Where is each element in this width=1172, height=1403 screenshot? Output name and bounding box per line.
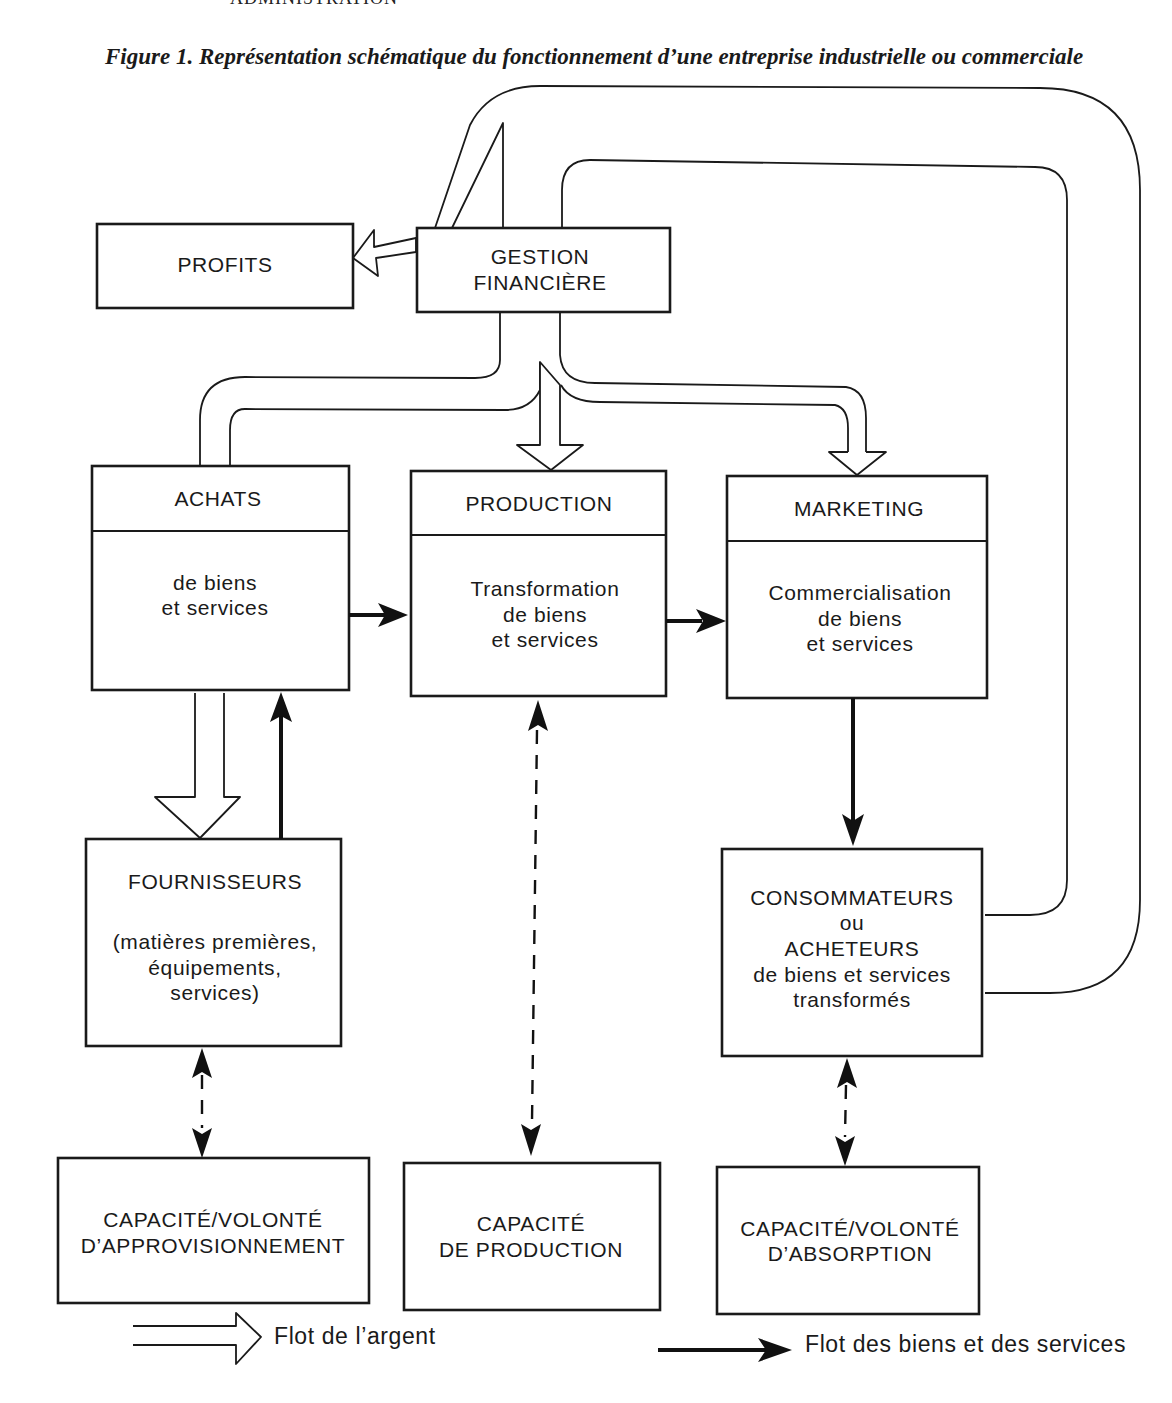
money-loop-inner-diagonal bbox=[452, 123, 503, 228]
money-branch-marketing-inner bbox=[561, 385, 848, 452]
gestion-label-line2: FINANCIÈRE bbox=[473, 271, 606, 294]
box-gestion-financiere: GESTION FINANCIÈRE bbox=[417, 228, 670, 312]
arrowhead-up-icon bbox=[528, 700, 548, 731]
profits-label: PROFITS bbox=[177, 253, 272, 276]
production-body-line3: et services bbox=[492, 628, 599, 651]
production-body-line2: de biens bbox=[503, 603, 587, 626]
consommateurs-line2: ou bbox=[840, 911, 865, 934]
gestion-label-line1: GESTION bbox=[491, 245, 590, 268]
marketing-body-line3: et services bbox=[807, 632, 914, 655]
money-arrow-to-profits bbox=[353, 230, 416, 276]
box-capacite-absorption: CAPACITÉ/VOLONTÉ D’ABSORPTION bbox=[717, 1167, 979, 1314]
marketing-body-line2: de biens bbox=[818, 607, 902, 630]
cap-absorption-line1: CAPACITÉ/VOLONTÉ bbox=[740, 1217, 959, 1240]
fournisseurs-body-line1: (matières premières, bbox=[113, 930, 318, 953]
business-flow-diagram: PROFITS GESTION FINANCIÈRE ACHATS de bie… bbox=[0, 0, 1172, 1403]
consommateurs-line1: CONSOMMATEURS bbox=[750, 886, 953, 909]
box-consommateurs: CONSOMMATEURS ou ACHETEURS de biens et s… bbox=[722, 849, 982, 1056]
legend: Flot de l’argent Flot des biens et des s… bbox=[133, 1313, 1126, 1364]
arrowhead-up-icon bbox=[192, 1048, 212, 1078]
box-production: PRODUCTION Transformation de biens et se… bbox=[411, 471, 666, 696]
money-branch-achats-outer bbox=[200, 312, 500, 465]
consommateurs-line5: transformés bbox=[793, 988, 910, 1011]
fournisseurs-title: FOURNISSEURS bbox=[128, 870, 302, 893]
legend-money-flow-label: Flot de l’argent bbox=[274, 1323, 436, 1349]
consommateurs-line4: de biens et services bbox=[753, 963, 951, 986]
cap-approvisionnement-line2: D’APPROVISIONNEMENT bbox=[81, 1234, 346, 1257]
box-fournisseurs: FOURNISSEURS (matières premières, équipe… bbox=[86, 839, 341, 1046]
money-arrow-to-marketing bbox=[829, 452, 886, 475]
consommateurs-line3: ACHETEURS bbox=[785, 937, 920, 960]
legend-money-flow: Flot de l’argent bbox=[133, 1313, 436, 1364]
cap-approvisionnement-line1: CAPACITÉ/VOLONTÉ bbox=[103, 1208, 322, 1231]
achats-body-line2: et services bbox=[162, 596, 269, 619]
money-branch-marketing-outer bbox=[560, 312, 866, 452]
marketing-body-line1: Commercialisation bbox=[769, 581, 952, 604]
box-profits: PROFITS bbox=[97, 224, 353, 308]
money-arrow-to-fournisseurs bbox=[155, 693, 240, 838]
cap-production-line1: CAPACITÉ bbox=[477, 1212, 585, 1235]
box-capacite-approvisionnement: CAPACITÉ/VOLONTÉ D’APPROVISIONNEMENT bbox=[58, 1158, 369, 1303]
cap-production-line2: DE PRODUCTION bbox=[439, 1238, 623, 1261]
legend-goods-flow-label: Flot des biens et des services bbox=[805, 1331, 1126, 1357]
legend-goods-flow: Flot des biens et des services bbox=[658, 1331, 1126, 1362]
marketing-title: MARKETING bbox=[794, 497, 924, 520]
arrowhead-down-icon bbox=[521, 1124, 541, 1156]
fournisseurs-body-line2: équipements, bbox=[148, 956, 281, 979]
arrowhead-up-icon bbox=[837, 1058, 857, 1088]
achats-title: ACHATS bbox=[174, 487, 261, 510]
arrowhead-down-icon bbox=[192, 1128, 212, 1158]
achats-body-line1: de biens bbox=[173, 571, 257, 594]
arrowhead-down-icon bbox=[835, 1136, 855, 1166]
production-title: PRODUCTION bbox=[465, 492, 612, 515]
cap-absorption-line2: D’ABSORPTION bbox=[768, 1242, 933, 1265]
box-marketing: MARKETING Commercialisation de biens et … bbox=[727, 476, 987, 698]
production-body-line1: Transformation bbox=[471, 577, 620, 600]
fournisseurs-body-line3: services) bbox=[170, 981, 259, 1004]
hollow-arrow-icon bbox=[133, 1313, 261, 1364]
box-capacite-production: CAPACITÉ DE PRODUCTION bbox=[404, 1163, 660, 1310]
box-achats: ACHATS de biens et services bbox=[92, 466, 349, 690]
